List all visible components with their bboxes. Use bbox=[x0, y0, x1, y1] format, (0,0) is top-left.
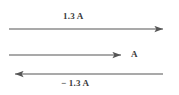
vector-diagram: 1.3 A A − 1.3 A bbox=[0, 0, 179, 95]
vector-label-middle: A bbox=[131, 49, 138, 59]
vector-label-bottom: − 1.3 A bbox=[61, 78, 89, 88]
vector-label-top: 1.3 A bbox=[63, 11, 84, 21]
vector-arrows-canvas bbox=[0, 0, 179, 95]
